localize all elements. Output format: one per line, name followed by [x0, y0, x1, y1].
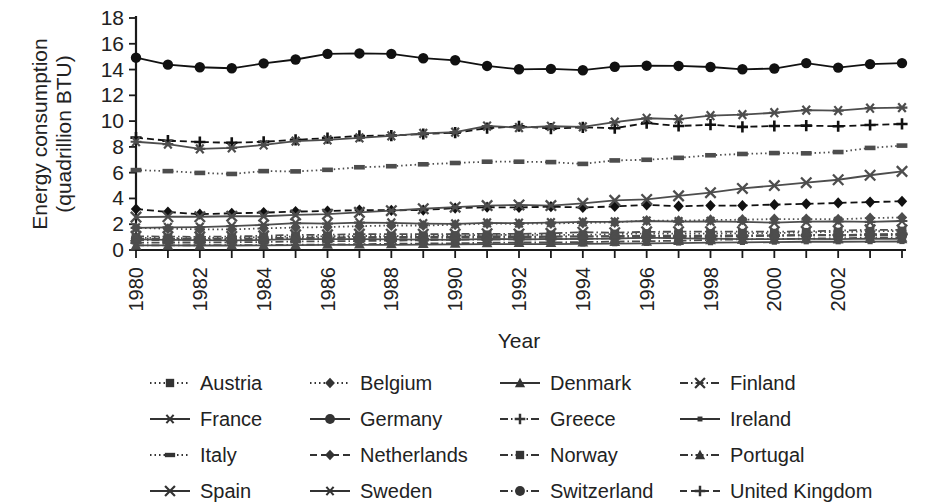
- data-point-marker: [450, 161, 461, 166]
- dash-rect-marker: [546, 160, 557, 165]
- legend-item-france[interactable]: France: [150, 408, 262, 430]
- data-point-marker: [578, 65, 588, 75]
- diamond-marker: [325, 450, 335, 461]
- data-point-marker: [865, 59, 875, 69]
- plus-marker: [354, 130, 365, 141]
- data-point-marker: [165, 415, 175, 423]
- legend-item-denmark[interactable]: Denmark: [500, 372, 632, 394]
- data-point-marker: [354, 130, 365, 141]
- x-tick-label: 1990: [444, 267, 466, 312]
- data-point-marker: [450, 55, 460, 65]
- asterisk-marker: [165, 415, 175, 423]
- series-france: [131, 103, 908, 153]
- data-point-marker: [131, 168, 142, 173]
- dash-rect-marker: [641, 157, 652, 162]
- legend-label: Switzerland: [550, 480, 653, 502]
- legend-item-finland[interactable]: Finland: [680, 372, 796, 394]
- legend-label: Spain: [200, 480, 251, 502]
- data-point-marker: [166, 379, 174, 387]
- data-point-marker: [163, 169, 174, 174]
- asterisk-marker: [769, 108, 780, 117]
- y-tick-label: 16: [101, 32, 124, 55]
- chart-canvas: 0246810121416181980198219841986198819901…: [0, 0, 925, 502]
- data-point-marker: [673, 201, 683, 212]
- legend-label: Belgium: [360, 372, 432, 394]
- data-point-marker: [897, 103, 908, 112]
- data-point-marker: [801, 213, 811, 224]
- y-tick-label: 8: [112, 135, 124, 158]
- circle-marker: [865, 59, 875, 69]
- data-point-marker: [897, 58, 907, 68]
- data-point-marker: [833, 62, 843, 72]
- circle-marker: [258, 58, 268, 68]
- plus-marker: [481, 123, 492, 134]
- data-point-marker: [514, 64, 524, 74]
- circle-marker: [737, 64, 747, 74]
- legend-label: Italy: [200, 444, 237, 466]
- data-point-marker: [516, 451, 524, 459]
- legend-label: United Kingdom: [730, 480, 872, 502]
- legend-item-switzerland[interactable]: Switzerland: [500, 480, 653, 502]
- data-point-marker: [865, 196, 875, 207]
- legend-item-sweden[interactable]: Sweden: [310, 480, 432, 502]
- x-axis-ticks: 1980198219841986198819901992199419961998…: [125, 250, 902, 312]
- circle-marker: [354, 48, 364, 58]
- dash-rect-marker: [673, 156, 684, 161]
- legend-item-germany[interactable]: Germany: [310, 408, 442, 430]
- data-point-marker: [194, 171, 205, 176]
- circle-marker: [801, 58, 811, 68]
- dash-rect-marker: [418, 162, 429, 167]
- data-point-marker: [227, 63, 237, 73]
- legend-item-netherlands[interactable]: Netherlands: [310, 444, 468, 466]
- data-point-marker: [801, 58, 811, 68]
- legend-item-spain[interactable]: Spain: [150, 480, 251, 502]
- circle-marker: [482, 61, 492, 71]
- data-point-marker: [705, 119, 716, 130]
- x-tick-label: 1984: [253, 267, 275, 312]
- asterisk-marker: [833, 106, 844, 115]
- legend-item-norway[interactable]: Norway: [500, 444, 618, 466]
- diamond-marker: [325, 378, 335, 389]
- series-united-kingdom: [130, 117, 907, 148]
- data-point-marker: [865, 104, 876, 113]
- plus-marker: [864, 119, 875, 130]
- data-point-marker: [386, 49, 396, 59]
- dash-rect-marker: [258, 169, 269, 174]
- asterisk-marker: [325, 487, 335, 495]
- diamond-marker: [737, 214, 747, 225]
- legend-item-italy[interactable]: Italy: [150, 444, 237, 466]
- data-point-marker: [482, 61, 492, 71]
- asterisk-marker: [801, 106, 812, 115]
- data-point-marker: [833, 197, 843, 208]
- asterisk-marker: [865, 104, 876, 113]
- data-point-marker: [801, 120, 812, 131]
- data-point-marker: [833, 106, 844, 115]
- circle-marker: [514, 64, 524, 74]
- circle-marker: [897, 58, 907, 68]
- legend-item-belgium[interactable]: Belgium: [310, 372, 432, 394]
- data-point-marker: [705, 62, 715, 72]
- data-point-marker: [418, 53, 428, 63]
- y-tick-label: 14: [101, 58, 125, 81]
- diamond-marker: [801, 213, 811, 224]
- legend-item-austria[interactable]: Austria: [150, 372, 263, 394]
- square-marker: [166, 379, 174, 387]
- legend-label: Norway: [550, 444, 618, 466]
- series-italy: [131, 143, 908, 176]
- legend-item-ireland[interactable]: Ireland: [680, 408, 791, 430]
- legend-item-united-kingdom[interactable]: United Kingdom: [680, 480, 872, 502]
- dash-rect-marker: [833, 150, 844, 155]
- x-tick-label: 1988: [380, 267, 402, 312]
- plus-marker: [515, 414, 526, 425]
- y-axis-title-line2: (quadrillion BTU): [52, 55, 75, 213]
- data-point-marker: [325, 414, 335, 424]
- dash-rect-marker: [801, 151, 812, 156]
- x-tick-label: 1996: [636, 267, 658, 312]
- legend-item-greece[interactable]: Greece: [500, 408, 616, 430]
- data-point-marker: [801, 198, 811, 209]
- y-tick-label: 12: [101, 83, 124, 106]
- circle-marker: [418, 53, 428, 63]
- dash-rect-marker: [769, 151, 780, 156]
- legend-item-portugal[interactable]: Portugal: [680, 444, 805, 466]
- x-axis-title: Year: [498, 329, 540, 352]
